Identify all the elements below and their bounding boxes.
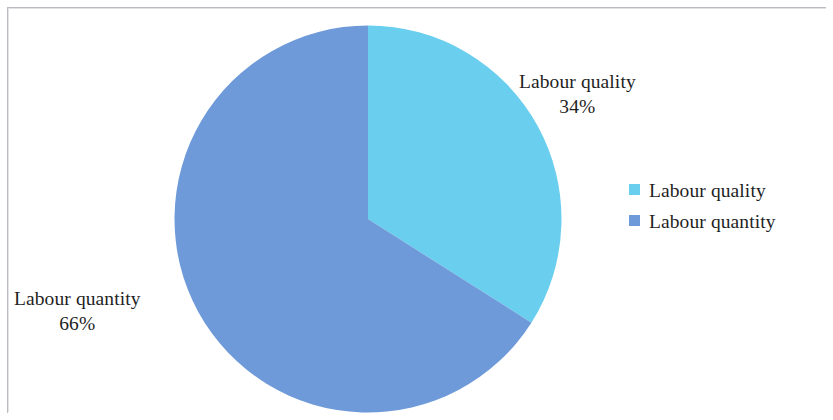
legend-swatch-icon-labour-quality [629,184,640,195]
callout-quality-percent: 34% [519,95,636,120]
callout-labour-quantity: Labour quantity 66% [14,287,141,337]
legend-label-labour-quality: Labour quality [649,181,766,201]
callout-quantity-percent: 66% [14,312,141,337]
callout-quantity-category: Labour quantity [14,287,141,312]
plot-area: Labour quality 34% Labour quantity 66% L… [0,0,833,420]
legend-label-labour-quantity: Labour quantity [649,212,776,232]
callout-quality-category: Labour quality [519,70,636,95]
pie-svg [174,25,562,413]
chart-page: Labour quality 34% Labour quantity 66% L… [0,0,833,420]
legend-item-labour-quantity[interactable]: Labour quantity [629,205,776,236]
legend-item-labour-quality[interactable]: Labour quality [629,174,776,205]
legend-swatch-icon-labour-quantity [629,215,640,226]
callout-labour-quality: Labour quality 34% [519,70,636,120]
pie-chart [174,25,562,413]
chart-legend: Labour quality Labour quantity [629,174,776,236]
